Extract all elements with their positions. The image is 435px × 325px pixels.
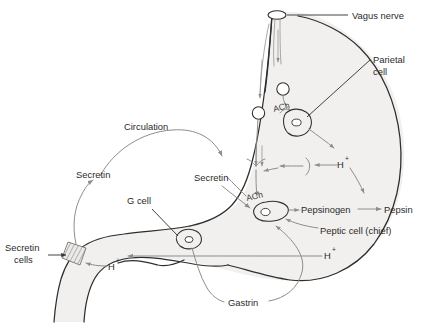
stomach-shape (55, 12, 404, 322)
secretin-label-right: Secretin (194, 172, 228, 183)
peptic-cell-label: Peptic cell (chief) (320, 225, 391, 236)
secretin-release-pathway (74, 180, 93, 244)
g-cell-label: G cell (127, 195, 151, 206)
h-plus-symbol-3: H (108, 261, 115, 272)
h-plus-symbol-2: H (324, 250, 331, 261)
circulation-label: Circulation (124, 121, 168, 132)
parietal-cell-label-line1: Parietal (373, 54, 405, 65)
gastrin-label: Gastrin (228, 297, 258, 308)
h-plus-superscript-1: + (345, 155, 349, 162)
parietal-cell-label-line2: cell (373, 66, 387, 77)
parietal-cell-nucleus (292, 119, 301, 126)
h-plus-symbol-1: H (337, 159, 344, 170)
vagus-ganglion-icon (268, 11, 286, 19)
diagram-canvas: ACh ACh (0, 0, 435, 325)
pepsin-label: Pepsin (384, 204, 413, 215)
secretin-cells-label-line2: cells (14, 254, 33, 265)
circulation-pathway (100, 130, 222, 176)
secretin-label-left: Secretin (76, 169, 110, 180)
vagus-nerve-label: Vagus nerve (352, 10, 404, 21)
peptic-cell-nucleus (261, 208, 270, 215)
secretin-cells-label-line1: Secretin (5, 242, 39, 253)
g-cell-nucleus (185, 237, 193, 243)
h-plus-superscript-2: + (332, 246, 336, 253)
vagal-synapse-upper-icon (277, 83, 289, 95)
h-plus-superscript-3: + (116, 257, 120, 264)
pepsinogen-label: Pepsinogen (301, 204, 351, 215)
g-cell (176, 229, 201, 249)
vagal-synapse-lower-icon (252, 107, 264, 119)
gastric-regulation-diagram: ACh ACh (0, 0, 435, 325)
